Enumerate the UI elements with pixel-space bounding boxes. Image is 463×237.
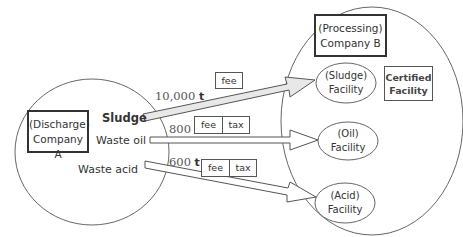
waste-label-oil: Waste oil: [96, 134, 146, 147]
quantity-sludge: 10,000 t: [155, 89, 204, 103]
company-a-name: Company A: [29, 132, 87, 162]
sludge-facility-label: (Sludge) Facility: [316, 69, 376, 97]
company-a-role: (Discharge): [29, 117, 87, 132]
oil-tax-chip: tax: [222, 116, 250, 134]
quantity-acid: 600 t: [169, 155, 200, 169]
company-b-role: (Processing): [316, 21, 385, 36]
oil-fee-chip: fee: [194, 116, 223, 134]
company-b-name: Company B: [316, 36, 385, 51]
sludge-fee-chip: fee: [215, 72, 243, 89]
company-b-box: (Processing) Company B: [314, 14, 387, 57]
oil-facility-label: (Oil) Facility: [318, 127, 378, 155]
acid-tax-chip: tax: [229, 159, 257, 177]
acid-fee-chip: fee: [201, 159, 230, 177]
waste-label-sludge: Sludge: [102, 112, 147, 125]
acid-facility-label: (Acid) Facility: [315, 189, 375, 217]
certified-facility-box: Certified Facility: [384, 66, 433, 101]
waste-label-acid: Waste acid: [78, 163, 138, 176]
company-a-box: (Discharge) Company A: [27, 110, 89, 153]
